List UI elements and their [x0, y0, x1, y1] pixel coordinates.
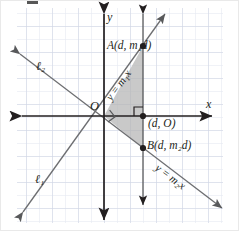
- point-a-label: A(d, m₁d): [107, 40, 151, 52]
- point-b-label: B(d, m₂d): [147, 140, 191, 152]
- point-foot-dot: [140, 113, 146, 119]
- foot-point-label: (d, O): [148, 118, 175, 130]
- point-b-dot: [140, 145, 146, 151]
- geometry-figure: A(d, m₁d) B(d, m₂d) (d, O) O x y ℓ₂ ℓ₁ y…: [0, 0, 239, 231]
- line-ell-2-label: ℓ₂: [36, 60, 45, 72]
- y-axis-label: y: [107, 11, 112, 23]
- line-ell-1-label: ℓ₁: [35, 173, 44, 185]
- x-axis-label: x: [206, 98, 211, 110]
- origin-label: O: [90, 100, 99, 113]
- diagram-canvas: [0, 0, 239, 231]
